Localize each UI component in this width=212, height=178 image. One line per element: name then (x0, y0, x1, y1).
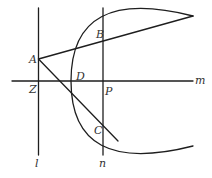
label-n: n (99, 157, 106, 170)
label-z: Z (28, 83, 37, 96)
label-a: A (28, 53, 37, 66)
label-p: P (104, 85, 113, 98)
label-c: C (94, 124, 103, 137)
tangent-ab (39, 16, 194, 59)
label-l: l (35, 157, 39, 170)
label-b: B (95, 28, 104, 41)
diagram-svg: A B D Z P C m l n (0, 0, 212, 178)
parabola-diagram: A B D Z P C m l n (0, 0, 212, 178)
label-d: D (75, 70, 85, 83)
label-m: m (195, 74, 205, 87)
